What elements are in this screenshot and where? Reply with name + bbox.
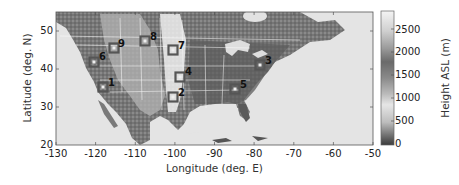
svg-text:-110: -110 — [124, 148, 147, 159]
site-label-3: 3 — [265, 55, 272, 66]
site-label-4: 4 — [185, 66, 192, 77]
svg-text:2500: 2500 — [395, 24, 420, 35]
colorbar-tick-labels: 0 500 1000 1500 2000 2500 — [395, 24, 420, 149]
colorbar-gradient — [381, 11, 394, 145]
site-label-7: 7 — [178, 40, 185, 51]
x-axis-label: Longitude (deg. E) — [166, 162, 263, 174]
x-tick-labels: -130 -120 -110 -100 -90 -80 -70 -60 -50 — [45, 148, 382, 159]
elevation-map-figure: 1 2 3 4 5 6 7 — [0, 0, 459, 185]
svg-text:1500: 1500 — [395, 69, 420, 80]
y-axis-label: Latitude (deg. N) — [21, 33, 33, 122]
svg-text:-120: -120 — [84, 148, 107, 159]
svg-text:40: 40 — [40, 63, 53, 74]
site-label-5: 5 — [240, 79, 247, 90]
svg-text:-80: -80 — [246, 148, 262, 159]
svg-text:20: 20 — [40, 139, 53, 150]
site-label-6: 6 — [99, 51, 106, 62]
svg-text:500: 500 — [395, 115, 414, 126]
svg-text:-60: -60 — [325, 148, 341, 159]
map-plot-area — [56, 10, 373, 145]
svg-text:-90: -90 — [206, 148, 222, 159]
svg-text:-70: -70 — [286, 148, 302, 159]
svg-text:50: 50 — [40, 25, 53, 36]
svg-text:-50: -50 — [365, 148, 381, 159]
y-tick-labels: 20 30 40 50 — [40, 25, 53, 150]
svg-text:30: 30 — [40, 101, 53, 112]
site-label-8: 8 — [150, 31, 157, 42]
site-label-9: 9 — [118, 38, 125, 49]
svg-text:0: 0 — [395, 138, 401, 149]
site-label-2: 2 — [178, 87, 185, 98]
svg-text:2000: 2000 — [395, 46, 420, 57]
site-label-1: 1 — [108, 77, 115, 88]
colorbar-label: Height ASL (m) — [439, 38, 451, 118]
svg-text:1000: 1000 — [395, 92, 420, 103]
svg-text:-100: -100 — [164, 148, 187, 159]
colorbar: 0 500 1000 1500 2000 2500 Height ASL (m) — [381, 11, 451, 149]
